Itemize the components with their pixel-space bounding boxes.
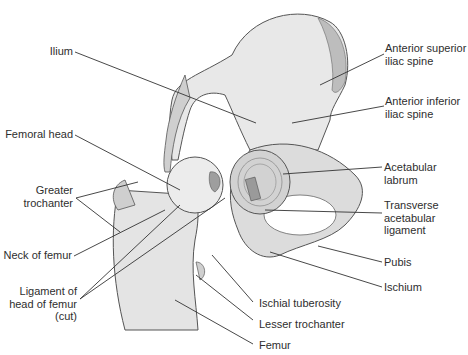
label-femur: Femur: [259, 339, 291, 352]
label-acetabular-labrum: Acetabular labrum: [384, 161, 437, 186]
label-ischium: Ischium: [384, 281, 422, 294]
label-lesser-trochanter: Lesser trochanter: [259, 318, 345, 331]
label-ligament-of-head-of-femur: Ligament of head of femur (cut): [9, 285, 77, 323]
label-femoral-head: Femoral head: [5, 128, 73, 141]
acetabulum: [230, 150, 290, 214]
hip-joint-diagram: Ilium Femoral head Greater trochanter Ne…: [0, 0, 468, 355]
label-transverse-acetabular-ligament: Transverse acetabular ligament: [384, 199, 439, 237]
label-greater-trochanter: Greater trochanter: [23, 184, 73, 209]
label-neck-of-femur: Neck of femur: [4, 249, 72, 262]
label-ilium: Ilium: [50, 45, 73, 58]
label-pubis: Pubis: [384, 256, 412, 269]
label-anterior-inferior-iliac-spine: Anterior inferior iliac spine: [385, 95, 460, 120]
ilium-bone: [170, 14, 348, 160]
label-anterior-superior-iliac-spine: Anterior superior iliac spine: [385, 42, 466, 67]
label-ischial-tuberosity: Ischial tuberosity: [259, 297, 341, 310]
